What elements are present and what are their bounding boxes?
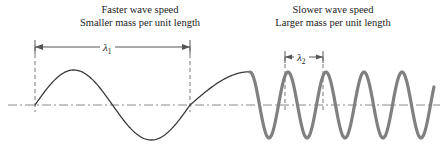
lambda2-arrowhead-left [285, 55, 292, 60]
wave-graphic [0, 0, 446, 162]
lambda1-arrowhead-left [35, 44, 43, 50]
lambda1-subscript: 1 [108, 47, 112, 56]
lambda2-subscript: 2 [302, 57, 306, 66]
lambda1-label: λ1 [100, 41, 115, 56]
lambda1-arrowhead-right [182, 44, 190, 50]
wave-diagram-figure: Faster wave speed Smaller mass per unit … [0, 0, 446, 162]
lambda2-label: λ2 [294, 51, 309, 66]
lambda2-arrowhead-right [316, 55, 323, 60]
